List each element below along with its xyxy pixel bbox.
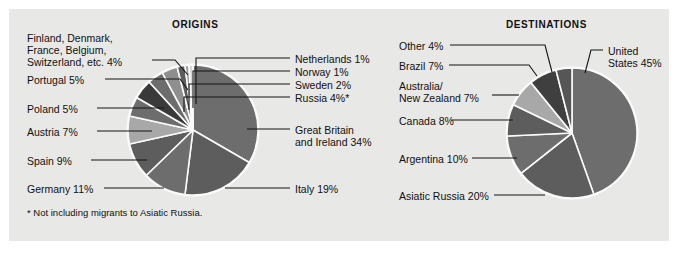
label-origins-netherlands: Netherlands 1% (295, 53, 370, 65)
chart-title-origins: ORIGINS (172, 19, 218, 30)
label-origins-misc-line1: Finland, Denmark, (27, 32, 122, 44)
footnote-origins: * Not including migrants to Asiatic Russ… (27, 207, 202, 218)
pie-chart-origins (126, 63, 260, 197)
label-origins-misc-line3: Switzerland, etc. 4% (27, 56, 122, 68)
label-destinations-asiatic-russia: Asiatic Russia 20% (399, 190, 489, 202)
label-origins-misc: Finland, Denmark, France, Belgium, Switz… (27, 32, 122, 69)
label-origins-great-britain: Great Britain and Ireland 34% (295, 124, 371, 148)
label-origins-portugal: Portugal 5% (27, 74, 84, 86)
label-destinations-argentina: Argentina 10% (399, 153, 468, 165)
pie-chart-destinations (505, 66, 639, 200)
label-destinations-australia: Australia/ New Zealand 7% (399, 80, 479, 104)
label-destinations-canada: Canada 8% (399, 115, 454, 127)
label-origins-russia: Russia 4%* (295, 92, 349, 104)
chart-title-destinations: DESTINATIONS (506, 19, 587, 30)
label-destinations-united-states-line1: United (608, 45, 662, 57)
label-destinations-australia-line2: New Zealand 7% (399, 92, 479, 104)
label-destinations-brazil: Brazil 7% (399, 60, 443, 72)
label-origins-germany: Germany 11% (27, 183, 93, 195)
label-origins-norway: Norway 1% (295, 66, 349, 78)
label-origins-poland: Poland 5% (27, 103, 78, 115)
label-origins-misc-line2: France, Belgium, (27, 44, 122, 56)
label-origins-great-britain-line1: Great Britain (295, 124, 371, 136)
label-origins-austria: Austria 7% (27, 126, 78, 138)
label-destinations-australia-line1: Australia/ (399, 80, 479, 92)
label-origins-italy: Italy 19% (295, 183, 338, 195)
label-destinations-other: Other 4% (399, 40, 443, 52)
label-origins-sweden: Sweden 2% (295, 79, 351, 91)
figure-root: ORIGINS DESTINATIONS Finland, Denmark, F… (0, 0, 686, 257)
label-origins-spain: Spain 9% (27, 155, 72, 167)
label-origins-great-britain-line2: and Ireland 34% (295, 136, 371, 148)
